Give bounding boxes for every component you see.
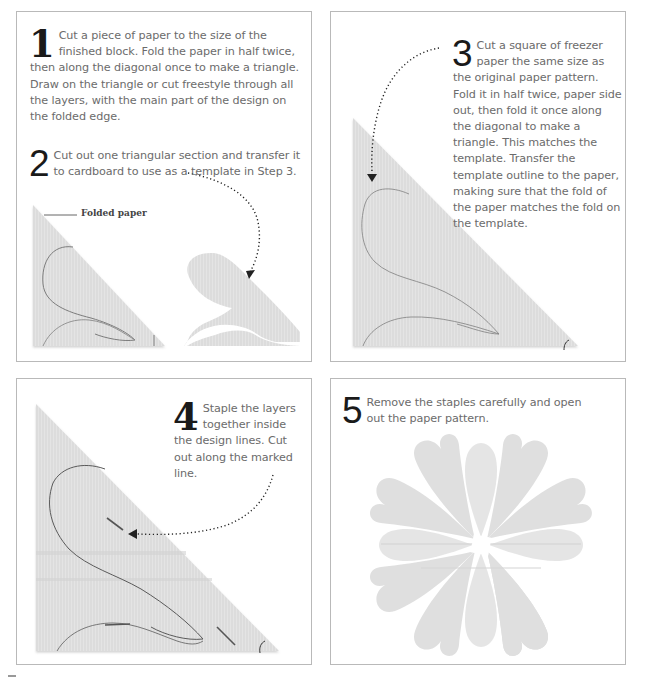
step-5: 5 Remove the staples carefully and open … xyxy=(343,395,583,427)
step-number: 4 xyxy=(173,402,199,432)
step-number: 5 xyxy=(342,396,362,426)
step-number: 1 xyxy=(29,29,55,59)
step-text: Cut a piece of paper to the size of the … xyxy=(30,29,299,123)
step-number: 3 xyxy=(452,39,472,69)
step-1: 1 Cut a piece of paper to the size of th… xyxy=(30,28,302,125)
page-corner-mark xyxy=(6,672,18,678)
folded-paper-label: Folded paper xyxy=(81,208,147,218)
step-text: Cut out one triangular section and trans… xyxy=(53,149,300,178)
folded-paper-triangle xyxy=(33,205,165,346)
step-3: 3 Cut a square of freezer paper the same… xyxy=(453,38,623,232)
panel-steps-1-2: 1 Cut a piece of paper to the size of th… xyxy=(16,11,312,362)
step-2: 2 Cut out one triangular section and tra… xyxy=(30,148,302,180)
step-4: 4 Staple the layers together inside the … xyxy=(174,401,306,482)
unfolded-paper-pattern xyxy=(370,434,592,656)
dotted-arrow xyxy=(137,475,273,534)
step-number: 2 xyxy=(29,149,49,179)
panel-step-5: 5 Remove the staples carefully and open … xyxy=(330,378,626,665)
step-text: Cut a square of freezer paper the same s… xyxy=(453,39,622,230)
panel-step-3: 3 Cut a square of freezer paper the same… xyxy=(330,11,626,362)
staple-icon xyxy=(105,624,130,625)
step-text: Remove the staples carefully and open ou… xyxy=(366,396,581,425)
panel-step-4: 4 Staple the layers together inside the … xyxy=(16,378,312,665)
template-piece xyxy=(184,253,300,347)
